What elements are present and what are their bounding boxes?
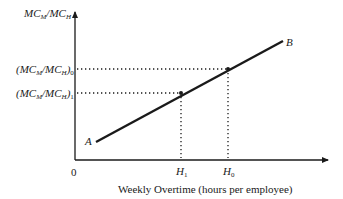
cost-ratio-line	[96, 41, 283, 142]
x-tick-h1: H1	[175, 165, 188, 179]
x-tick-h0: H0	[222, 165, 235, 179]
origin-label: 0	[71, 166, 77, 178]
point-h0	[226, 67, 230, 71]
line-start-label-a: A	[84, 135, 92, 147]
y-axis-label: MCM/MCH	[23, 7, 72, 21]
point-h1	[179, 91, 183, 95]
y-tick-ratio-1: (MCM/MCH)1	[16, 87, 74, 101]
line-end-label-b: B	[286, 36, 293, 48]
x-axis-label: Weekly Overtime (hours per employee)	[118, 183, 293, 196]
overtime-cost-diagram: MCM/MCH (MCM/MCH)0 (MCM/MCH)1 0 H1 H0 We…	[0, 0, 343, 199]
y-tick-ratio-0: (MCM/MCH)0	[16, 63, 74, 77]
